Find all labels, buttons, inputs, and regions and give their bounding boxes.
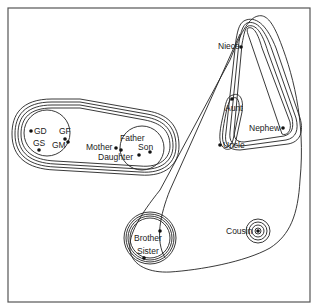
gd-point [29,129,33,133]
cousin-point [256,229,260,233]
son-label: Son [138,142,153,152]
niece-point [239,45,243,49]
nephew-point [281,126,285,130]
gm-label: GM [52,140,66,150]
nephew-label: Nephew [249,123,281,133]
cousin-label: Cousin [226,226,253,236]
sister-point [142,256,146,260]
sister-label: Sister [137,246,159,256]
uncle-point [218,143,222,147]
aunt-label: Aunt [225,103,243,113]
gs-point [37,148,41,152]
niece-label: Niece [218,41,240,51]
gs-label: GS [33,138,46,148]
gd-label: GD [34,126,47,136]
mother-label: Mother [86,142,113,152]
gm-point [66,140,70,144]
brother-label: Brother [134,233,162,243]
uncle-label: Uncle [223,140,245,150]
daughter-label: Daughter [98,152,133,162]
mother-point [114,146,118,150]
daughter-point [137,153,141,157]
gf-label: GF [59,126,71,136]
kinship-cluster-diagram: GD GS GF GM Mother Father Daughter Son N… [0,0,316,305]
aunt-point [230,97,234,101]
